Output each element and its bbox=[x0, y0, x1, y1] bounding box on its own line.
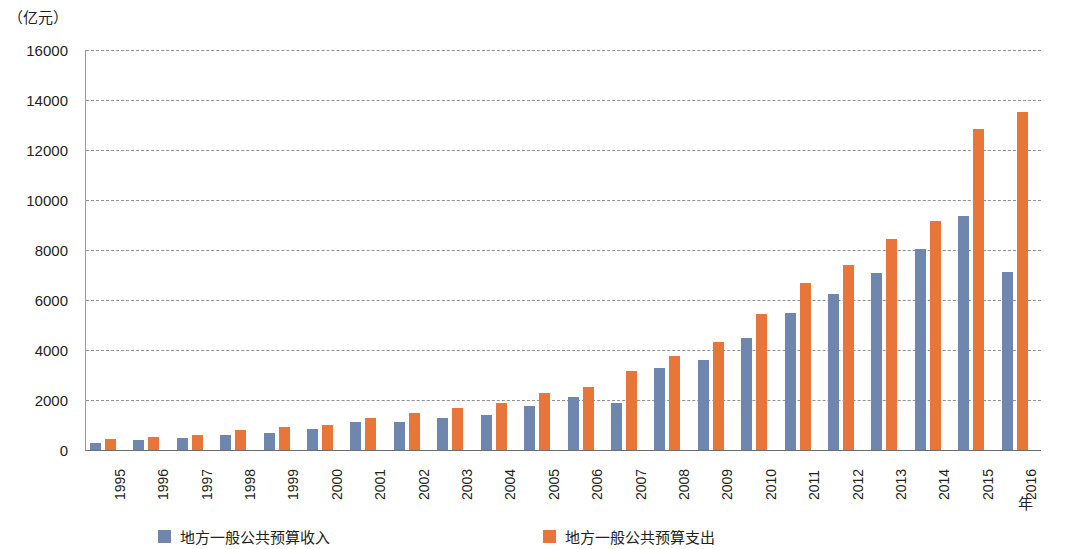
bar-group bbox=[867, 50, 910, 450]
x-axis-tick-label: 2005 bbox=[547, 469, 561, 500]
bar-group bbox=[607, 50, 650, 450]
bar-group bbox=[694, 50, 737, 450]
y-axis-tick-label: 6000 bbox=[0, 293, 78, 308]
bar-expenditure bbox=[192, 435, 203, 451]
legend-swatch-icon-revenue bbox=[158, 530, 171, 543]
bar-group bbox=[564, 50, 607, 450]
y-axis-tick-labels: 1600014000120001000080006000400020000 bbox=[0, 50, 78, 450]
x-axis-tick-label: 2002 bbox=[417, 469, 431, 500]
bar-group bbox=[173, 50, 216, 450]
bar-group bbox=[954, 50, 997, 450]
bar-revenue bbox=[698, 360, 709, 451]
legend-label-revenue: 地方一般公共预算收入 bbox=[180, 526, 330, 547]
bar-group bbox=[998, 50, 1041, 450]
bar-expenditure bbox=[756, 314, 767, 450]
bar-expenditure bbox=[626, 371, 637, 450]
x-axis-tick-label: 1997 bbox=[200, 469, 214, 500]
x-axis-tick-label: 2006 bbox=[590, 469, 604, 500]
x-axis-tick-label: 2014 bbox=[937, 469, 951, 500]
bar-expenditure bbox=[409, 413, 420, 450]
bar-expenditure bbox=[713, 342, 724, 451]
bar-revenue bbox=[264, 433, 275, 451]
legend-label-expenditure: 地方一般公共预算支出 bbox=[565, 526, 715, 547]
bar-group bbox=[824, 50, 867, 450]
x-axis-tick-label: 2008 bbox=[677, 469, 691, 500]
x-axis-tick-label: 2013 bbox=[894, 469, 908, 500]
x-axis-tick-label: 2011 bbox=[807, 470, 821, 500]
bar-expenditure bbox=[322, 425, 333, 451]
bar-group bbox=[216, 50, 259, 450]
x-axis-tick-label: 2001 bbox=[373, 469, 387, 500]
y-axis-tick-label: 10000 bbox=[0, 193, 78, 208]
bar-expenditure bbox=[105, 439, 116, 450]
bar-revenue bbox=[568, 397, 579, 450]
bar-chart: （亿元） 16000140001200010000800060004000200… bbox=[0, 0, 1069, 549]
bar-revenue bbox=[220, 435, 231, 450]
x-axis-tick-label: 2015 bbox=[981, 469, 995, 500]
bar-group bbox=[303, 50, 346, 450]
bar-group bbox=[650, 50, 693, 450]
bar-group bbox=[129, 50, 172, 450]
bar-revenue bbox=[524, 406, 535, 451]
legend-item-expenditure: 地方一般公共预算支出 bbox=[543, 526, 715, 547]
x-axis-tick-label: 1998 bbox=[243, 469, 257, 500]
bar-expenditure bbox=[669, 356, 680, 450]
bar-revenue bbox=[90, 443, 101, 451]
bar-expenditure bbox=[365, 418, 376, 450]
x-axis-tick-label: 2009 bbox=[720, 469, 734, 500]
y-axis-tick-label: 12000 bbox=[0, 143, 78, 158]
bar-expenditure bbox=[800, 283, 811, 451]
x-axis-tick-label: 1999 bbox=[286, 469, 300, 500]
bar-group bbox=[520, 50, 563, 450]
bar-group bbox=[433, 50, 476, 450]
bar-expenditure bbox=[496, 403, 507, 450]
x-axis-tick-label: 2007 bbox=[634, 469, 648, 500]
bar-revenue bbox=[394, 422, 405, 451]
bar-expenditure bbox=[279, 427, 290, 450]
bar-revenue bbox=[350, 422, 361, 450]
x-axis-tick-labels: 1995199619971998199920002001200220032004… bbox=[85, 452, 1040, 514]
bar-revenue bbox=[958, 216, 969, 450]
x-axis-tick-label: 2004 bbox=[503, 469, 517, 500]
bar-group bbox=[737, 50, 780, 450]
bar-revenue bbox=[871, 273, 882, 450]
bar-revenue bbox=[828, 294, 839, 450]
bar-revenue bbox=[611, 403, 622, 450]
bar-revenue bbox=[437, 418, 448, 450]
x-axis-title: 年 bbox=[1018, 492, 1033, 513]
bar-group bbox=[346, 50, 389, 450]
bar-expenditure bbox=[1017, 112, 1028, 450]
x-axis-tick-label: 1996 bbox=[156, 469, 170, 500]
bar-expenditure bbox=[235, 430, 246, 450]
bar-revenue bbox=[177, 438, 188, 450]
x-axis-tick-label: 2012 bbox=[851, 469, 865, 500]
bar-group bbox=[390, 50, 433, 450]
plot-area bbox=[85, 50, 1041, 451]
y-axis-tick-label: 14000 bbox=[0, 93, 78, 108]
bar-revenue bbox=[481, 415, 492, 451]
x-axis-tick-label: 2000 bbox=[330, 469, 344, 500]
bar-group bbox=[477, 50, 520, 450]
y-axis-tick-label: 0 bbox=[0, 443, 78, 458]
x-axis-tick-label: 2010 bbox=[764, 469, 778, 500]
bar-series-container bbox=[86, 50, 1041, 450]
x-axis-tick-label: 2003 bbox=[460, 469, 474, 500]
bar-revenue bbox=[654, 368, 665, 450]
bar-revenue bbox=[133, 440, 144, 451]
bar-expenditure bbox=[539, 393, 550, 450]
x-axis-tick-label: 1995 bbox=[113, 469, 127, 500]
y-axis-tick-label: 4000 bbox=[0, 343, 78, 358]
bar-revenue bbox=[1002, 272, 1013, 451]
chart-legend: 地方一般公共预算收入 地方一般公共预算支出 bbox=[0, 526, 1069, 549]
legend-swatch-icon-expenditure bbox=[543, 530, 556, 543]
bar-revenue bbox=[785, 313, 796, 451]
bar-revenue bbox=[915, 249, 926, 450]
y-axis-tick-label: 8000 bbox=[0, 243, 78, 258]
bar-expenditure bbox=[148, 437, 159, 451]
bar-group bbox=[781, 50, 824, 450]
bar-revenue bbox=[741, 338, 752, 451]
bar-expenditure bbox=[452, 408, 463, 450]
bar-expenditure bbox=[973, 129, 984, 450]
legend-item-revenue: 地方一般公共预算收入 bbox=[158, 526, 330, 547]
bar-expenditure bbox=[583, 387, 594, 450]
